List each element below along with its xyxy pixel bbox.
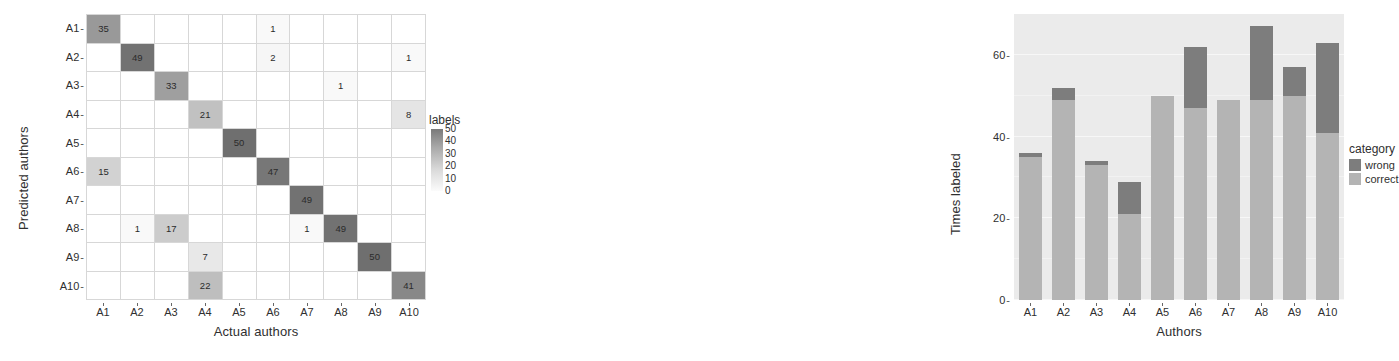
matrix-cell xyxy=(358,101,392,130)
bar-y-tick-labels: 0-20-40-60- xyxy=(964,14,1010,300)
matrix-cell xyxy=(189,15,223,44)
matrix-cell: 1 xyxy=(324,72,358,101)
matrix-x-tick-label: A3 xyxy=(164,306,177,318)
bar-segment-wrong xyxy=(1283,67,1306,96)
bar-column-A8 xyxy=(1250,14,1273,300)
bar-segment-correct xyxy=(1118,214,1141,300)
bar-x-tick-label: A8 xyxy=(1255,306,1268,318)
bar-column-A10 xyxy=(1316,14,1339,300)
matrix-x-tick-A2: A2 xyxy=(120,303,154,319)
matrix-cell xyxy=(121,15,155,44)
bar-x-tick-labels: A1A2A3A4A5A6A7A8A9A10 xyxy=(1014,303,1344,319)
matrix-y-tick-mark: - xyxy=(80,108,84,120)
matrix-y-tick-mark: - xyxy=(80,22,84,34)
bar-y-tick-0: 0- xyxy=(999,294,1010,306)
matrix-y-tick-mark: - xyxy=(80,251,84,263)
matrix-y-tick-label: A9 xyxy=(66,251,79,263)
matrix-cell xyxy=(290,129,324,158)
matrix-cell xyxy=(324,186,358,215)
bar-y-tick-mark: - xyxy=(1006,212,1010,224)
bar-legend-entry-wrong: wrong xyxy=(1349,159,1399,171)
matrix-cell xyxy=(223,215,257,244)
matrix-cell: 50 xyxy=(358,243,392,272)
matrix-cell xyxy=(324,272,358,301)
matrix-cell xyxy=(155,158,189,187)
bar-x-tick-A5: A5 xyxy=(1151,303,1174,319)
matrix-cell xyxy=(358,158,392,187)
matrix-cell xyxy=(121,158,155,187)
bar-column-A9 xyxy=(1283,14,1306,300)
matrix-cell xyxy=(223,15,257,44)
matrix-y-tick-A3: A3- xyxy=(66,71,84,100)
matrix-cell xyxy=(358,129,392,158)
matrix-y-tick-label: A4 xyxy=(66,108,79,120)
matrix-x-axis-title-text: Actual authors xyxy=(214,324,299,339)
matrix-cell xyxy=(189,158,223,187)
bar-x-tick-A8: A8 xyxy=(1250,303,1273,319)
matrix-cell xyxy=(189,72,223,101)
matrix-cell xyxy=(358,72,392,101)
matrix-cell: 22 xyxy=(189,272,223,301)
matrix-cell xyxy=(257,72,291,101)
bar-segment-correct xyxy=(1151,96,1174,300)
matrix-cell xyxy=(223,243,257,272)
matrix-x-tick-label: A9 xyxy=(368,306,381,318)
matrix-cell: 33 xyxy=(155,72,189,101)
bar-x-tick-label: A3 xyxy=(1090,306,1103,318)
matrix-cell: 8 xyxy=(392,101,426,130)
matrix-cell xyxy=(155,129,189,158)
matrix-y-tick-A6: A6- xyxy=(66,157,84,186)
matrix-cell xyxy=(155,15,189,44)
bar-x-axis-title: Authors xyxy=(1014,322,1344,340)
bar-y-tick-label: 40 xyxy=(993,131,1005,143)
matrix-cell xyxy=(290,158,324,187)
bar-legend: category wrongcorrect xyxy=(1349,142,1399,187)
matrix-cell xyxy=(121,243,155,272)
matrix-x-tick-A10: A10 xyxy=(392,303,426,319)
matrix-cell xyxy=(87,186,121,215)
bar-x-tick-label: A9 xyxy=(1288,306,1301,318)
bar-y-tick-mark: - xyxy=(1006,131,1010,143)
matrix-y-axis-title-text: Predicted authors xyxy=(16,126,31,230)
matrix-y-tick-label: A8 xyxy=(66,222,79,234)
bar-legend-label: wrong xyxy=(1365,159,1395,171)
matrix-legend-tick-label: 0 xyxy=(445,186,451,196)
matrix-cell xyxy=(189,129,223,158)
bar-x-tick-label: A2 xyxy=(1057,306,1070,318)
matrix-grid: 3514921331218501547491171497502241 xyxy=(86,14,426,300)
bar-column-A5 xyxy=(1151,14,1174,300)
matrix-cell xyxy=(324,44,358,73)
matrix-y-tick-label: A3 xyxy=(66,79,79,91)
matrix-cell: 1 xyxy=(290,215,324,244)
bar-x-tick-label: A10 xyxy=(1318,306,1338,318)
matrix-y-tick-mark: - xyxy=(80,137,84,149)
matrix-cell xyxy=(121,272,155,301)
matrix-cell xyxy=(290,272,324,301)
matrix-x-tick-label: A10 xyxy=(399,306,419,318)
bar-column-A7 xyxy=(1217,14,1240,300)
matrix-cell: 2 xyxy=(257,44,291,73)
bar-plot-area xyxy=(1014,14,1344,300)
bar-x-tick-A1: A1 xyxy=(1019,303,1042,319)
matrix-x-tick-labels: A1A2A3A4A5A6A7A8A9A10 xyxy=(86,303,426,319)
matrix-x-tick-A6: A6 xyxy=(256,303,290,319)
bar-x-tick-A2: A2 xyxy=(1052,303,1075,319)
matrix-legend: labels 50403020100 xyxy=(431,113,467,191)
matrix-y-tick-label: A2 xyxy=(66,51,79,63)
matrix-legend-tick-label: 40 xyxy=(445,136,456,146)
bar-x-tick-label: A7 xyxy=(1222,306,1235,318)
matrix-cell xyxy=(358,15,392,44)
matrix-cell xyxy=(392,72,426,101)
matrix-cell xyxy=(392,186,426,215)
matrix-y-tick-mark: - xyxy=(80,165,84,177)
matrix-cell xyxy=(358,215,392,244)
bar-x-tick-A10: A10 xyxy=(1316,303,1339,319)
bar-x-tick-A4: A4 xyxy=(1118,303,1141,319)
matrix-x-tick-A5: A5 xyxy=(222,303,256,319)
matrix-cell xyxy=(223,158,257,187)
matrix-legend-colorbar xyxy=(431,129,443,191)
matrix-cell xyxy=(155,186,189,215)
matrix-cell xyxy=(392,15,426,44)
matrix-cell xyxy=(358,186,392,215)
